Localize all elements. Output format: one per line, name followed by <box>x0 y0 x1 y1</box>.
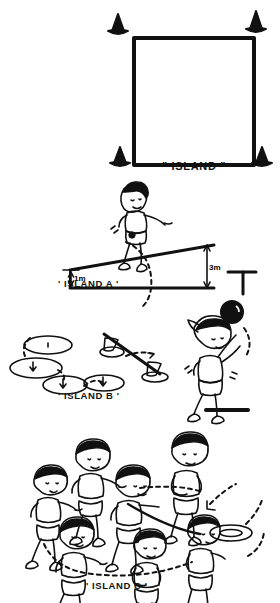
caption-island-a: ' ISLAND A ' <box>58 278 119 289</box>
child-figure-icon <box>127 529 166 603</box>
child-figure-icon <box>111 182 172 272</box>
arrow-icon <box>210 484 236 504</box>
child-figure-icon <box>165 432 208 546</box>
court-square <box>134 38 254 165</box>
jump-path-dashed <box>126 242 151 306</box>
island-c-drawing <box>0 416 280 603</box>
hoop-icon <box>10 358 62 378</box>
island-b-drawing <box>0 300 280 416</box>
child-figure-icon <box>70 439 126 547</box>
caption-island-c: ' ISLAND C ' <box>86 580 148 591</box>
caption-island-b: ' ISLAND B ' <box>58 390 120 401</box>
island-main-drawing <box>0 0 280 180</box>
hoop-icon <box>24 336 72 354</box>
island-a-drawing: 1m 3m <box>0 178 280 304</box>
ball-icon <box>129 232 135 238</box>
cone-icon <box>110 147 130 166</box>
dim-label-3m: 3m <box>209 263 221 272</box>
child-figure-icon <box>181 515 225 603</box>
panel-island-b: ' ISLAND B ' <box>0 300 280 416</box>
arrow-icon <box>246 500 262 524</box>
hop-path-dashed <box>24 338 30 358</box>
hop-path-dashed <box>84 381 102 386</box>
child-figure-icon <box>185 316 240 424</box>
panel-island-c: ' ISLAND C ' <box>0 416 280 603</box>
circle-path-dashed <box>44 544 192 576</box>
hoop-icon <box>84 375 124 391</box>
swing-path-dashed <box>244 328 250 356</box>
diagram-sheet: " ISLAND " 1m 3m <box>0 0 280 603</box>
cone-icon <box>246 11 266 32</box>
panel-island-main: " ISLAND " <box>0 0 280 180</box>
caption-island-main: " ISLAND " <box>162 160 226 172</box>
cone-icon <box>108 14 128 34</box>
suspended-ball-stand <box>228 272 256 294</box>
panel-island-a: 1m 3m <box>0 178 280 304</box>
arrow-icon <box>148 353 154 358</box>
ring-icon <box>210 525 252 541</box>
